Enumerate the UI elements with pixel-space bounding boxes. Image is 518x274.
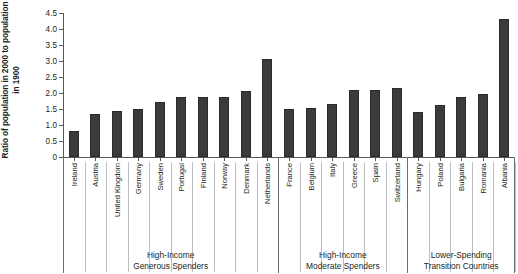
group-title: High-IncomeModerate Spenders <box>278 250 407 271</box>
group-title: High-IncomeGenerous Spenders <box>63 250 278 271</box>
y-tick-label: 3.0 <box>46 57 57 66</box>
bar-slot <box>450 13 472 157</box>
bar <box>435 105 445 157</box>
bar-slot <box>85 13 107 157</box>
bar <box>133 109 143 157</box>
bar <box>69 131 79 157</box>
bar-slot <box>364 13 386 157</box>
y-tick-label: 1.0 <box>46 121 57 130</box>
bar <box>90 114 100 157</box>
y-axis-title: Ratio of population in 2000 to populatio… <box>0 0 22 160</box>
bar <box>241 91 251 157</box>
group-title: Lower-SpendingTransition Countries <box>407 250 515 271</box>
bar-slot <box>63 13 85 157</box>
group-annotations: High-IncomeGenerous SpendersHigh-IncomeM… <box>63 157 515 274</box>
bar-slot <box>343 13 365 157</box>
bar-series <box>63 13 515 157</box>
bar <box>392 88 402 157</box>
bar-slot <box>235 13 257 157</box>
bar-slot <box>214 13 236 157</box>
bar <box>327 104 337 157</box>
bar-slot <box>493 13 515 157</box>
bar <box>198 97 208 157</box>
y-tick-label: 2.0 <box>46 89 57 98</box>
bar-slot <box>407 13 429 157</box>
y-tick-label: 3.5 <box>46 41 57 50</box>
bar-slot <box>128 13 150 157</box>
bar-slot <box>149 13 171 157</box>
y-tick-label: 0 <box>52 153 57 162</box>
bar-chart-figure: Ratio of population in 2000 to populatio… <box>0 0 518 274</box>
bar-slot <box>171 13 193 157</box>
y-tick-label: 0.5 <box>46 137 57 146</box>
bar-slot <box>429 13 451 157</box>
bar-slot <box>472 13 494 157</box>
bar <box>306 108 316 157</box>
group-title-line2: Generous Spenders <box>63 261 278 272</box>
bar-slot <box>278 13 300 157</box>
bar <box>499 19 509 157</box>
bar-slot <box>257 13 279 157</box>
y-tick-label: 4.0 <box>46 25 57 34</box>
group-title-line1: High-Income <box>278 250 407 261</box>
bar <box>478 94 488 157</box>
plot-area: 00.51.01.52.02.53.03.54.04.5 <box>63 13 515 157</box>
bar-slot <box>386 13 408 157</box>
bar <box>284 109 294 157</box>
group-title-line1: High-Income <box>63 250 278 261</box>
bar <box>370 90 380 157</box>
bar <box>456 97 466 157</box>
bar <box>155 102 165 157</box>
bar <box>176 97 186 157</box>
bar-slot <box>192 13 214 157</box>
y-tick-label: 2.5 <box>46 73 57 82</box>
bar-slot <box>106 13 128 157</box>
category-separator <box>515 162 516 272</box>
bar-slot <box>300 13 322 157</box>
bar <box>413 112 423 157</box>
bar <box>112 111 122 157</box>
group-title-line1: Lower-Spending <box>407 250 515 261</box>
bar <box>262 59 272 157</box>
y-tick-label: 4.5 <box>46 9 57 18</box>
y-axis-title-container: Ratio of population in 2000 to populatio… <box>0 0 36 165</box>
bar <box>349 90 359 157</box>
bar <box>219 97 229 157</box>
y-tick-label: 1.5 <box>46 105 57 114</box>
bar-slot <box>321 13 343 157</box>
group-title-line2: Moderate Spenders <box>278 261 407 272</box>
group-title-line2: Transition Countries <box>407 261 515 272</box>
